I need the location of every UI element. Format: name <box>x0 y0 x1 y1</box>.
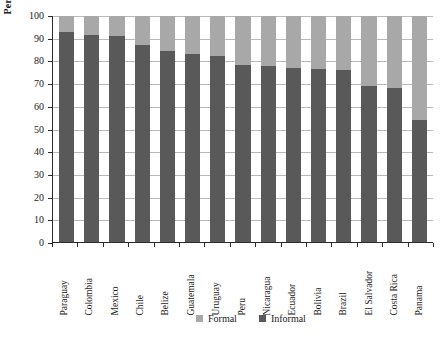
bar-segment-informal[interactable] <box>210 56 225 242</box>
bar-column[interactable] <box>180 16 205 242</box>
x-tick-label: Colombia <box>85 278 95 315</box>
bar-column[interactable] <box>407 16 432 242</box>
bar-column[interactable] <box>256 16 281 242</box>
y-tick-label: 60 <box>14 102 44 112</box>
x-tick-label: Panama <box>415 285 425 315</box>
legend-label: Informal <box>271 313 306 324</box>
bar-stack[interactable] <box>336 16 351 242</box>
bar-segment-formal[interactable] <box>210 16 225 56</box>
bar-stack[interactable] <box>387 16 402 242</box>
bar-segment-formal[interactable] <box>336 16 351 70</box>
bar-stack[interactable] <box>210 16 225 242</box>
bar-stack[interactable] <box>412 16 427 242</box>
bar-segment-formal[interactable] <box>311 16 326 69</box>
bar-segment-formal[interactable] <box>185 16 200 54</box>
legend-swatch <box>196 315 203 322</box>
x-tick-mark <box>433 243 434 247</box>
legend-label: Formal <box>208 313 237 324</box>
legend-item[interactable]: Formal <box>196 313 237 324</box>
bar-column[interactable] <box>382 16 407 242</box>
bar-series-container <box>53 16 433 242</box>
bar-segment-formal[interactable] <box>412 16 427 120</box>
y-tick-label: 0 <box>14 238 44 248</box>
bar-segment-informal[interactable] <box>261 66 276 242</box>
x-tick-label: Costa Rica <box>389 274 399 315</box>
y-tick-label: 50 <box>14 125 44 135</box>
bar-stack[interactable] <box>286 16 301 242</box>
bar-column[interactable] <box>230 16 255 242</box>
bar-stack[interactable] <box>311 16 326 242</box>
x-tick-label: Brazil <box>339 292 349 315</box>
x-tick-label: Belize <box>161 291 171 315</box>
bar-stack[interactable] <box>235 16 250 242</box>
plot-area <box>52 16 433 243</box>
bar-column[interactable] <box>104 16 129 242</box>
y-tick-label: 70 <box>14 79 44 89</box>
x-tick-label: Paraguay <box>59 280 69 315</box>
bar-stack[interactable] <box>160 16 175 242</box>
bar-segment-informal[interactable] <box>412 120 427 242</box>
bar-column[interactable] <box>281 16 306 242</box>
bar-segment-formal[interactable] <box>135 16 150 45</box>
x-tick-label: El Salvador <box>364 270 374 315</box>
bar-segment-informal[interactable] <box>109 36 124 242</box>
bar-stack[interactable] <box>84 16 99 242</box>
chart-legend: FormalInformal <box>196 313 306 324</box>
y-tick-label: 10 <box>14 215 44 225</box>
bar-segment-informal[interactable] <box>387 88 402 242</box>
bar-segment-informal[interactable] <box>286 68 301 242</box>
bar-column[interactable] <box>331 16 356 242</box>
bar-stack[interactable] <box>185 16 200 242</box>
x-tick-label: Bolivia <box>313 287 323 315</box>
bar-segment-informal[interactable] <box>160 51 175 242</box>
bar-segment-informal[interactable] <box>361 86 376 242</box>
bar-segment-formal[interactable] <box>387 16 402 88</box>
x-tick-label: Guatemala <box>186 274 196 315</box>
bar-segment-informal[interactable] <box>135 45 150 242</box>
bar-segment-informal[interactable] <box>59 32 74 242</box>
x-axis-labels: ParaguayColombiaMexicoChileBelizeGuatema… <box>52 247 433 315</box>
bar-segment-formal[interactable] <box>235 16 250 65</box>
bar-column[interactable] <box>130 16 155 242</box>
bar-segment-informal[interactable] <box>84 35 99 242</box>
x-tick-label: Chile <box>135 294 145 315</box>
legend-swatch <box>259 315 266 322</box>
bar-segment-formal[interactable] <box>160 16 175 51</box>
bar-segment-informal[interactable] <box>185 54 200 242</box>
y-tick-label: 20 <box>14 193 44 203</box>
y-axis-title: Percentage <box>2 0 13 60</box>
y-tick-label: 80 <box>14 56 44 66</box>
legend-item[interactable]: Informal <box>259 313 306 324</box>
bar-column[interactable] <box>306 16 331 242</box>
bar-column[interactable] <box>205 16 230 242</box>
bar-column[interactable] <box>155 16 180 242</box>
y-tick-label: 90 <box>14 34 44 44</box>
bar-segment-formal[interactable] <box>59 16 74 32</box>
bar-segment-formal[interactable] <box>109 16 124 36</box>
bar-stack[interactable] <box>135 16 150 242</box>
bar-segment-informal[interactable] <box>311 69 326 242</box>
y-tick-label: 40 <box>14 147 44 157</box>
bar-segment-informal[interactable] <box>235 65 250 242</box>
y-tick-label: 30 <box>14 170 44 180</box>
x-tick-label: Nicaragua <box>262 276 272 315</box>
bar-column[interactable] <box>79 16 104 242</box>
bar-stack[interactable] <box>59 16 74 242</box>
bar-segment-formal[interactable] <box>261 16 276 66</box>
bar-stack[interactable] <box>109 16 124 242</box>
bar-column[interactable] <box>356 16 381 242</box>
x-tick-label: Mexico <box>110 286 120 315</box>
chart-figure: Percentage 0102030405060708090100 Paragu… <box>0 0 448 347</box>
x-tick-label: Ecuador <box>288 283 298 315</box>
bar-segment-formal[interactable] <box>286 16 301 68</box>
bar-stack[interactable] <box>261 16 276 242</box>
bar-column[interactable] <box>54 16 79 242</box>
y-tick-label: 100 <box>14 11 44 21</box>
x-tick-label: Uruguay <box>212 282 222 315</box>
bar-stack[interactable] <box>361 16 376 242</box>
bar-segment-formal[interactable] <box>361 16 376 86</box>
bar-segment-informal[interactable] <box>336 70 351 242</box>
bar-segment-formal[interactable] <box>84 16 99 35</box>
